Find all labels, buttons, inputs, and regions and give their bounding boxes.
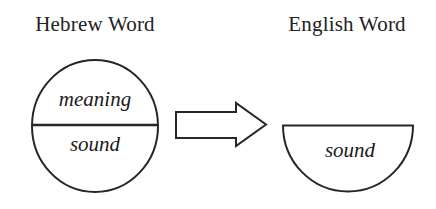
diagram-canvas: Hebrew Word English Word meaning sound s… — [0, 0, 436, 209]
label-sound-hebrew: sound — [33, 134, 157, 155]
right-arrow-icon — [176, 103, 266, 146]
label-sound-english: sound — [286, 140, 414, 161]
label-meaning: meaning — [33, 89, 157, 110]
